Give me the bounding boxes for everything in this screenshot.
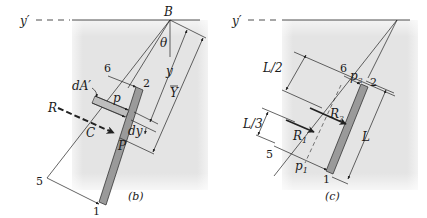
point-5-label: 5 [36, 175, 43, 188]
point-1-label-c: 1 [323, 173, 330, 186]
l-third-label: L/3 [242, 117, 263, 131]
point-6-label: 6 [104, 62, 111, 75]
point-6-label-c: 6 [340, 62, 347, 75]
figure-c: y′ L/2 L/3 6 2 5 1 p2 p1 L [231, 14, 418, 203]
caption-c: (c) [325, 190, 340, 203]
point-2-label-c: 2 [370, 76, 377, 89]
figure-b: y′ B θ 6 2 5 1 dA′ p R C P [19, 5, 208, 218]
l-label: L [361, 130, 370, 144]
resultant-r-label: R [47, 101, 57, 115]
pressure-p-label: p [113, 91, 121, 105]
da-prime-label: dA′ [72, 79, 91, 93]
l-half-label: L/2 [262, 61, 283, 75]
y-label: y [165, 64, 173, 78]
y-prime-axis-label: y′ [19, 14, 30, 28]
point-5-label-c: 5 [266, 148, 273, 161]
y-bar-label: Y [170, 86, 179, 100]
hydrostatic-diagram: y′ B θ 6 2 5 1 dA′ p R C P [0, 0, 427, 218]
theta-label: θ [160, 36, 168, 50]
point-2-label: 2 [143, 77, 150, 90]
caption-b: (b) [128, 190, 144, 203]
y-prime-axis-label-c: y′ [231, 14, 242, 28]
dy-label: dy [128, 124, 143, 138]
point-1-label: 1 [93, 205, 100, 218]
center-of-pressure-p-label: P [117, 139, 127, 153]
centroid-c-label: C [86, 126, 95, 140]
point-b-label: B [163, 5, 173, 19]
